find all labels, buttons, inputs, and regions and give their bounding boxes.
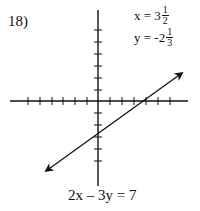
coordinate-graph [0,0,200,211]
graphed-line [46,73,182,171]
equation-label: 2x – 3y = 7 [68,187,136,204]
